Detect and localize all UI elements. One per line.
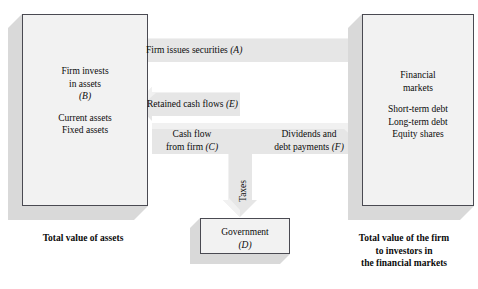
markets-line-1: Financial [363, 69, 473, 82]
flow-label-f-line-1: Dividends and [254, 128, 364, 141]
flow-label-c-line-2: from firm [166, 142, 203, 152]
government-letter: (D) [201, 239, 289, 252]
flow-label-c-line-2-wrap: from firm (C) [144, 141, 240, 154]
markets-box-text: Financial markets Short-term debt Long-t… [363, 69, 473, 141]
flow-label-c-line-1: Cash flow [144, 128, 240, 141]
government-box-face: Government (D) [200, 218, 290, 254]
financial-markets-box: Financial markets Short-term debt Long-t… [348, 14, 474, 220]
firm-box-face: Firm invests in assets (B) Current asset… [22, 14, 148, 206]
firm-box: Firm invests in assets (B) Current asset… [8, 14, 148, 220]
government-box: Government (D) [190, 218, 290, 264]
markets-item-3: Equity shares [363, 128, 473, 141]
caption-total-value-of-firm: Total value of the firm to investors in … [334, 232, 474, 270]
flow-label-a: Firm issues securities (A) [146, 44, 242, 57]
flow-label-e: Retained cash flows (E) [147, 98, 238, 111]
diagram-canvas: Firm invests in assets (B) Current asset… [0, 0, 478, 289]
markets-item-1: Short-term debt [363, 103, 473, 116]
caption-markets-line-3: the financial markets [334, 257, 474, 270]
caption-markets-line-1: Total value of the firm [334, 232, 474, 245]
flow-label-taxes: Taxes [238, 180, 248, 202]
firm-line-1: Firm invests [23, 65, 147, 78]
firm-item-2: Fixed assets [23, 124, 147, 137]
flow-label-f-letter: (F) [332, 142, 344, 152]
markets-item-2: Long-term debt [363, 116, 473, 129]
firm-letter: (B) [23, 90, 147, 103]
government-box-text: Government (D) [201, 226, 289, 251]
caption-total-value-of-assets: Total value of assets [8, 232, 158, 245]
flow-label-a-letter: (A) [230, 45, 242, 55]
markets-line-2: markets [363, 82, 473, 95]
flow-label-f-line-2: debt payments [274, 142, 329, 152]
flow-label-a-text: Firm issues securities [146, 45, 228, 55]
flow-label-c: Cash flow from firm (C) [144, 128, 240, 153]
government-line-1: Government [201, 226, 289, 239]
firm-line-2: in assets [23, 78, 147, 91]
firm-box-text: Firm invests in assets (B) Current asset… [23, 65, 147, 137]
caption-markets-line-2: to investors in [334, 245, 474, 258]
flow-label-e-text: Retained cash flows [147, 99, 224, 109]
firm-item-1: Current assets [23, 112, 147, 125]
flow-label-c-letter: (C) [205, 142, 218, 152]
markets-box-face: Financial markets Short-term debt Long-t… [362, 14, 474, 206]
flow-label-f-line-2-wrap: debt payments (F) [254, 141, 364, 154]
flow-label-e-letter: (E) [226, 99, 238, 109]
flow-label-f: Dividends and debt payments (F) [254, 128, 364, 153]
